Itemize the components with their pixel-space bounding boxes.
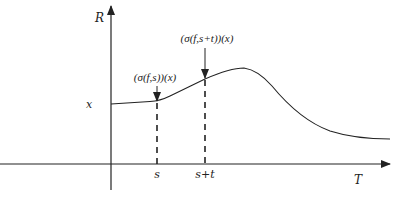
annotation-sigma-f-s: (σ(f,s))(x) [134,71,177,84]
diagram-canvas: R T x s s+t (σ(f,s))(x) (σ(f,s+t))(x) [0,0,394,201]
y-axis-label: R [94,11,104,25]
tick-label-s: s [154,168,160,181]
initial-value-label: x [86,98,93,111]
annotation-sigma-f-s-plus-t: (σ(f,s+t))(x) [181,32,234,45]
tick-label-s-plus-t: s+t [195,168,215,181]
x-axis-label: T [354,173,363,187]
